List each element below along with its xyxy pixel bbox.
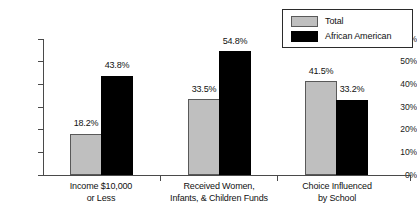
category-label-line-2: Infants, & Children Funds	[148, 193, 290, 205]
x-axis-category-label-wic: Received Women, Infants, & Children Fund…	[148, 181, 290, 204]
bar-value-label-total-school: 41.5%	[291, 66, 351, 76]
bar-value-label-african-american-income: 43.8%	[87, 60, 147, 70]
bar-african-american-school	[336, 100, 368, 175]
category-label-line-2: by School	[281, 193, 393, 205]
x-axis-category-label-school: Choice Influenced by School	[281, 181, 393, 204]
legend-entry-total: Total	[291, 16, 344, 27]
category-label-line-2: or Less	[41, 193, 161, 205]
x-axis-separator-tick-3	[410, 176, 411, 181]
category-label-line-1: Income $10,000	[41, 181, 161, 193]
y-axis-tick-label-20: 20%	[383, 125, 417, 134]
bar-value-label-african-american-school: 33.2%	[322, 84, 382, 94]
x-axis-category-label-income: Income $10,000 or Less	[41, 181, 161, 204]
bar-value-label-total-income: 18.2%	[56, 118, 116, 128]
bar-chart: 60% 50% 40% 30% 20% 10% 0% 18.2% 43.8% 3…	[0, 0, 417, 216]
x-axis-line	[43, 175, 411, 176]
category-label-line-1: Received Women,	[148, 181, 290, 193]
legend-label-total: Total	[325, 16, 344, 27]
bar-total-income	[70, 134, 102, 175]
bar-african-american-wic	[219, 51, 251, 175]
y-axis-tick-label-10: 10%	[383, 148, 417, 157]
y-axis-tick-label-40: 40%	[383, 80, 417, 89]
legend-entry-african-american: African American	[291, 31, 391, 42]
category-label-line-1: Choice Influenced	[281, 181, 393, 193]
bar-total-school	[305, 81, 337, 175]
bar-value-label-african-american-wic: 54.8%	[205, 36, 265, 46]
legend-label-african-american: African American	[325, 31, 391, 42]
bar-total-wic	[188, 99, 220, 175]
y-axis-tick-label-50: 50%	[383, 57, 417, 66]
gray-swatch-icon	[291, 16, 318, 27]
black-swatch-icon	[291, 31, 318, 42]
y-axis-line	[43, 39, 44, 176]
bar-value-label-total-wic: 33.5%	[174, 84, 234, 94]
chart-legend: Total African American	[282, 9, 413, 48]
y-axis-tick-label-30: 30%	[383, 103, 417, 112]
